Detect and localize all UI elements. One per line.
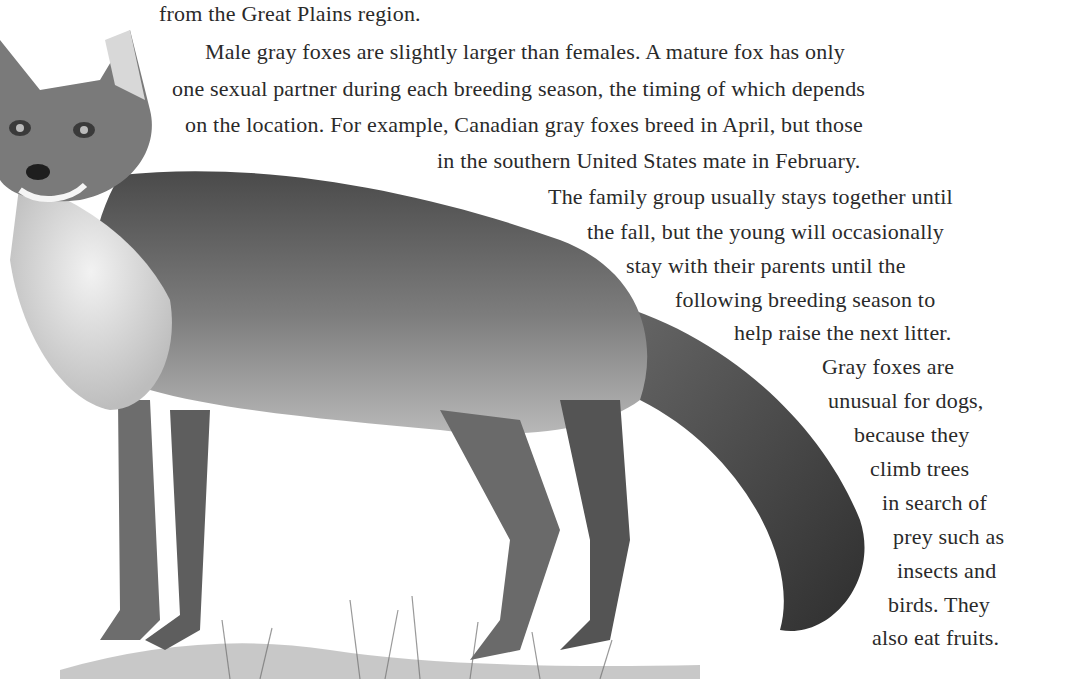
text-line: on the location. For example, Canadian g… xyxy=(185,111,863,139)
text-line: unusual for dogs, xyxy=(828,387,984,415)
text-line: prey such as xyxy=(893,523,1004,551)
text-line: following breeding season to xyxy=(675,286,935,314)
text-line: help raise the next litter. xyxy=(734,319,951,347)
text-line: Male gray foxes are slightly larger than… xyxy=(205,38,845,66)
book-page: from the Great Plains region.Male gray f… xyxy=(0,0,1068,679)
text-line: in the southern United States mate in Fe… xyxy=(437,147,860,175)
text-line: climb trees xyxy=(870,455,969,483)
text-line: from the Great Plains region. xyxy=(159,0,421,28)
text-line: in search of xyxy=(882,489,987,517)
text-line: stay with their parents until the xyxy=(626,252,906,280)
text-line: birds. They xyxy=(888,591,990,619)
text-line: The family group usually stays together … xyxy=(548,183,953,211)
text-line: Gray foxes are xyxy=(822,353,954,381)
text-line: insects and xyxy=(897,557,996,585)
text-line: the fall, but the young will occasionall… xyxy=(587,218,944,246)
text-line: because they xyxy=(854,421,969,449)
text-line: one sexual partner during each breeding … xyxy=(172,75,865,103)
text-line: also eat fruits. xyxy=(872,624,999,652)
